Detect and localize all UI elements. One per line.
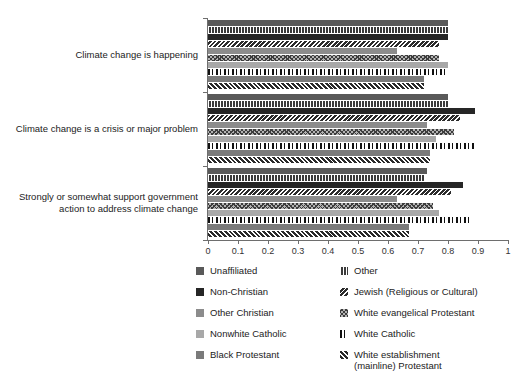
bar bbox=[208, 196, 397, 202]
x-tick-label: 0.8 bbox=[436, 246, 460, 256]
legend-label: Other Christian bbox=[210, 308, 274, 319]
legend-item-left-4[interactable]: Black Protestant bbox=[196, 350, 346, 371]
legend-item-right-2[interactable]: White evangelical Protestant bbox=[340, 308, 532, 329]
legend-label: Non-Christian bbox=[210, 287, 268, 298]
bar bbox=[208, 62, 448, 68]
legend-item-left-3[interactable]: Nonwhite Catholic bbox=[196, 329, 346, 350]
bar bbox=[208, 48, 397, 54]
x-tick-label: 0.5 bbox=[346, 246, 370, 256]
category-label-line: Strongly or somewhat support government bbox=[0, 191, 198, 203]
bar bbox=[208, 129, 454, 135]
legend-swatch-icon bbox=[196, 288, 204, 296]
bar bbox=[208, 108, 475, 114]
legend-item-left-1[interactable]: Non-Christian bbox=[196, 287, 346, 308]
x-tick-label: 0.4 bbox=[316, 246, 340, 256]
bar bbox=[208, 101, 448, 107]
x-tick-label: 0.9 bbox=[466, 246, 490, 256]
legend: UnaffiliatedNon-ChristianOther Christian… bbox=[196, 266, 532, 382]
legend-item-right-0[interactable]: Other bbox=[340, 266, 532, 287]
legend-item-left-2[interactable]: Other Christian bbox=[196, 308, 346, 329]
legend-label: Nonwhite Catholic bbox=[210, 329, 287, 340]
legend-item-right-4[interactable]: White establishment(mainline) Protestant bbox=[340, 350, 532, 380]
bar bbox=[208, 122, 427, 128]
x-tick-mark bbox=[298, 240, 299, 244]
legend-column-left: UnaffiliatedNon-ChristianOther Christian… bbox=[196, 266, 346, 371]
bar bbox=[208, 157, 430, 163]
bar bbox=[208, 182, 463, 188]
bar bbox=[208, 136, 436, 142]
legend-item-right-3[interactable]: White Catholic bbox=[340, 329, 532, 350]
bar-chart: 00.10.20.30.40.50.60.70.80.91 Climate ch… bbox=[0, 0, 532, 385]
legend-label: Black Protestant bbox=[210, 350, 279, 361]
bar bbox=[208, 224, 409, 230]
x-tick-label: 0 bbox=[196, 246, 220, 256]
bar bbox=[208, 231, 409, 237]
legend-swatch-icon bbox=[340, 267, 348, 275]
legend-label: White Catholic bbox=[354, 329, 415, 340]
category-label-line: action to address climate change bbox=[0, 203, 198, 215]
x-tick-mark bbox=[208, 240, 209, 244]
legend-swatch-icon bbox=[196, 330, 204, 338]
legend-swatch-icon bbox=[196, 309, 204, 317]
bar bbox=[208, 115, 460, 121]
x-tick-label: 0.1 bbox=[226, 246, 250, 256]
x-tick-mark bbox=[418, 240, 419, 244]
legend-swatch-icon bbox=[196, 351, 204, 359]
x-tick-mark bbox=[238, 240, 239, 244]
legend-label: Unaffiliated bbox=[210, 266, 257, 277]
bar bbox=[208, 203, 433, 209]
legend-item-right-1[interactable]: Jewish (Religious or Cultural) bbox=[340, 287, 532, 308]
legend-column-right: OtherJewish (Religious or Cultural)White… bbox=[340, 266, 532, 380]
legend-label: White evangelical Protestant bbox=[354, 308, 474, 319]
legend-label: Jewish (Religious or Cultural) bbox=[354, 287, 478, 298]
bar bbox=[208, 20, 448, 26]
x-tick-mark bbox=[448, 240, 449, 244]
category-label-support: Strongly or somewhat support government … bbox=[0, 191, 198, 215]
category-label-happening: Climate change is happening bbox=[0, 49, 198, 61]
bar bbox=[208, 76, 424, 82]
x-tick-mark bbox=[508, 240, 509, 244]
x-tick-mark bbox=[268, 240, 269, 244]
bar bbox=[208, 27, 448, 33]
x-tick-mark bbox=[358, 240, 359, 244]
bars-container bbox=[208, 18, 508, 240]
bar bbox=[208, 217, 469, 223]
bar bbox=[208, 210, 439, 216]
x-tick-label: 0.3 bbox=[286, 246, 310, 256]
x-tick-mark bbox=[328, 240, 329, 244]
legend-swatch-icon bbox=[340, 351, 348, 359]
legend-swatch-icon bbox=[340, 309, 348, 317]
category-label-line: Climate change is happening bbox=[0, 49, 198, 61]
bar bbox=[208, 143, 475, 149]
bar bbox=[208, 55, 439, 61]
legend-swatch-icon bbox=[196, 267, 204, 275]
bar bbox=[208, 175, 424, 181]
bar bbox=[208, 189, 451, 195]
bar bbox=[208, 41, 439, 47]
bar bbox=[208, 168, 427, 174]
x-tick-label: 1 bbox=[496, 246, 520, 256]
x-tick-mark bbox=[388, 240, 389, 244]
legend-item-left-0[interactable]: Unaffiliated bbox=[196, 266, 346, 287]
bar bbox=[208, 83, 424, 89]
x-tick-label: 0.7 bbox=[406, 246, 430, 256]
x-tick-mark bbox=[478, 240, 479, 244]
x-tick-label: 0.2 bbox=[256, 246, 280, 256]
category-label-crisis: Climate change is a crisis or major prob… bbox=[0, 123, 198, 135]
legend-label: Other bbox=[354, 266, 378, 277]
bar bbox=[208, 94, 448, 100]
bar bbox=[208, 150, 430, 156]
legend-swatch-icon bbox=[340, 330, 348, 338]
bar bbox=[208, 69, 448, 75]
legend-swatch-icon bbox=[340, 288, 348, 296]
bar bbox=[208, 34, 448, 40]
legend-label: White establishment(mainline) Protestant bbox=[354, 350, 442, 371]
category-label-line: Climate change is a crisis or major prob… bbox=[0, 123, 198, 135]
category-tick bbox=[203, 240, 208, 241]
x-tick-label: 0.6 bbox=[376, 246, 400, 256]
